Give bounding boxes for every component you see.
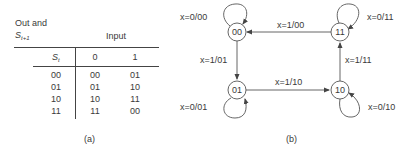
transition-label-10-11: x=1/11 — [345, 56, 372, 65]
transition-label-01-01: x=0/01 — [180, 103, 207, 112]
self-loop-00 — [224, 4, 247, 26]
state-01: 01 — [225, 86, 249, 95]
state-11: 11 — [328, 28, 352, 37]
transition-label-10-10: x=0/10 — [368, 103, 395, 112]
self-loop-01 — [224, 98, 246, 118]
transition-label-11-00: x=1/00 — [277, 21, 304, 30]
state-diagram — [0, 0, 409, 152]
transition-label-01-10: x=1/10 — [275, 78, 302, 87]
state-10: 10 — [328, 86, 352, 95]
transition-label-11-11: x=0/11 — [367, 13, 394, 22]
state-00: 00 — [225, 28, 249, 37]
caption-b: (b) — [286, 135, 297, 144]
transition-label-00-00: x=0/00 — [180, 13, 207, 22]
transition-label-00-01: x=1/01 — [200, 56, 227, 65]
